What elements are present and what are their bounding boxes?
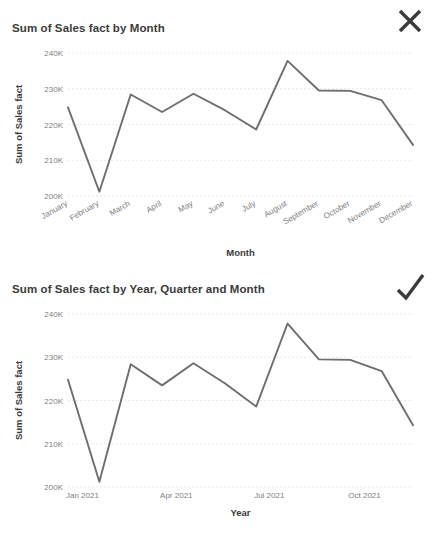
x-axis-tick-label: Jan 2021	[66, 491, 99, 500]
y-axis-tick-label: 240K	[44, 310, 63, 319]
x-axis-tick-label: June	[206, 199, 226, 216]
y-axis-tick-label: 230K	[44, 85, 63, 94]
x-axis-tick-label: April	[145, 199, 164, 215]
x-axis-tick-label: July	[240, 199, 257, 214]
x-axis-tick-label: Oct 2021	[348, 491, 381, 500]
x-axis-tick-label: May	[177, 199, 195, 214]
x-axis-tick-label: February	[68, 199, 100, 223]
line-chart-month: 200K210K220K230K240KSum of Sales factJan…	[0, 0, 435, 266]
chart-panel-month: Sum of Sales fact by Month 200K210K220K2…	[0, 0, 435, 266]
x-axis-tick-label: November	[346, 199, 383, 225]
x-axis-tick-label: Apr 2021	[160, 491, 193, 500]
line-chart-year-quarter-month: 200K210K220K230K240KSum of Sales factJan…	[0, 266, 435, 533]
y-axis-tick-label: 200K	[44, 192, 63, 201]
x-axis-tick-label: March	[108, 199, 132, 218]
x-axis-tick-label: Jul 2021	[254, 491, 285, 500]
y-axis-title: Sum of Sales fact	[13, 84, 24, 164]
y-axis-tick-label: 220K	[44, 121, 63, 130]
x-axis-tick-label: September	[282, 199, 321, 227]
x-axis-title: Year	[230, 507, 250, 518]
y-axis-tick-label: 230K	[44, 353, 63, 362]
x-axis-title: Month	[226, 247, 255, 258]
chart-panel-year-quarter-month: Sum of Sales fact by Year, Quarter and M…	[0, 266, 435, 533]
y-axis-tick-label: 200K	[44, 483, 63, 492]
y-axis-title: Sum of Sales fact	[13, 360, 24, 440]
y-axis-tick-label: 210K	[44, 156, 63, 165]
data-series-line	[68, 61, 413, 192]
y-axis-tick-label: 210K	[44, 440, 63, 449]
y-axis-tick-label: 240K	[44, 49, 63, 58]
x-axis-tick-label: December	[378, 199, 415, 225]
y-axis-tick-label: 220K	[44, 397, 63, 406]
x-axis-tick-label: January	[40, 199, 69, 221]
data-series-line	[68, 324, 413, 482]
